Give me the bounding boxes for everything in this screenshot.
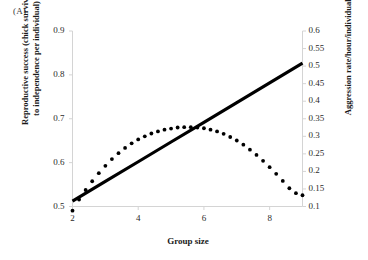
right-tick-label: 0.15 [309, 183, 339, 193]
right-axis-ticks [303, 31, 307, 207]
x-tick-label: 8 [260, 213, 280, 223]
right-tick-label: 0.35 [309, 113, 339, 123]
x-tick-label: 6 [194, 213, 214, 223]
right-tick-label: 0.55 [309, 43, 339, 53]
left-tick-label: 0.7 [35, 113, 65, 123]
right-tick-label: 0.5 [309, 60, 339, 70]
series-reproductive-success [73, 63, 303, 201]
left-tick-label: 0.8 [35, 69, 65, 79]
right-tick-label: 0.4 [309, 95, 339, 105]
right-tick-label: 0.6 [309, 25, 339, 35]
right-tick-label: 0.2 [309, 165, 339, 175]
right-tick-label: 0.25 [309, 148, 339, 158]
series-aggression-rate [71, 125, 305, 212]
right-tick-label: 0.3 [309, 130, 339, 140]
figure-panel-a: (A) Reproductive success (chick survival… [0, 0, 368, 260]
left-tick-label: 0.6 [35, 157, 65, 167]
x-axis-ticks [73, 207, 270, 211]
x-tick-label: 4 [128, 213, 148, 223]
left-tick-label: 0.9 [35, 25, 65, 35]
right-tick-label: 0.1 [309, 201, 339, 211]
right-tick-label: 0.45 [309, 78, 339, 88]
x-tick-label: 2 [63, 213, 83, 223]
left-tick-label: 0.5 [35, 201, 65, 211]
left-axis-ticks [69, 31, 73, 207]
